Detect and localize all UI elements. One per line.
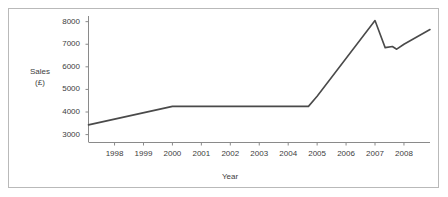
x-tick-label: 2001 <box>186 149 216 158</box>
x-tick-label: 2005 <box>302 149 332 158</box>
sales-line-series <box>89 21 431 125</box>
y-tick-label: 8000 <box>46 17 80 26</box>
x-tick-label: 1998 <box>100 149 130 158</box>
y-tick-label: 4000 <box>46 107 80 116</box>
chart-figure: 300040005000600070008000 199819992000200… <box>0 0 448 197</box>
x-axis-title: Year <box>200 172 260 181</box>
x-tick-label: 2000 <box>157 149 187 158</box>
x-tick-label: 2003 <box>244 149 274 158</box>
y-axis-title-line2: (£) <box>18 77 62 88</box>
line-chart-plot <box>0 0 448 197</box>
x-tick-label: 2007 <box>360 149 390 158</box>
x-tick-label: 2004 <box>273 149 303 158</box>
y-axis-title: Sales (£) <box>18 66 62 88</box>
y-axis-title-line1: Sales <box>18 66 62 77</box>
axes-lines <box>89 16 431 143</box>
x-tick-label: 1999 <box>128 149 158 158</box>
x-tick-label: 2002 <box>215 149 245 158</box>
x-tick-label: 2008 <box>389 149 419 158</box>
x-tick-label: 2006 <box>331 149 361 158</box>
y-tick-label: 7000 <box>46 39 80 48</box>
y-tick-label: 3000 <box>46 130 80 139</box>
